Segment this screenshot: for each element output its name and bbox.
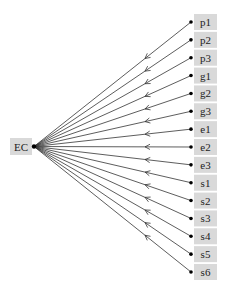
edge-e3 — [34, 147, 191, 165]
endpoint-dot — [189, 217, 193, 221]
node-label: g3 — [200, 105, 212, 117]
edge-p3 — [34, 58, 191, 147]
edge-s5 — [34, 147, 191, 255]
endpoint-dot — [189, 20, 193, 24]
edge-e1 — [34, 129, 191, 146]
node-label: s1 — [201, 177, 211, 189]
edges — [34, 22, 191, 272]
endpoint-dot — [189, 38, 193, 42]
node-label: p2 — [200, 34, 211, 46]
endpoint-dot — [189, 109, 193, 113]
edge-s1 — [34, 147, 191, 183]
source-node: EC — [10, 138, 36, 155]
endpoint-dot — [189, 74, 193, 78]
node-label: p3 — [200, 52, 212, 64]
endpoint-dot — [189, 127, 193, 131]
endpoint-dot — [189, 199, 193, 203]
edge-e2 — [34, 147, 191, 148]
target-node-g3: g3 — [189, 103, 217, 119]
node-label: s3 — [201, 212, 211, 224]
node-label: s6 — [201, 266, 211, 278]
edge-p2 — [34, 40, 191, 147]
node-label: s4 — [201, 230, 211, 242]
endpoint-dot — [189, 270, 193, 274]
node-label: s2 — [201, 195, 211, 207]
node-label: e1 — [200, 123, 210, 135]
target-node-s1: s1 — [189, 175, 217, 191]
edge-p1 — [34, 22, 191, 147]
node-label: g1 — [200, 70, 211, 82]
node-label: p1 — [200, 16, 211, 28]
target-node-s2: s2 — [189, 193, 217, 209]
arrowhead-icon — [145, 223, 151, 228]
endpoint-dot — [189, 234, 193, 238]
target-node-s5: s5 — [189, 246, 217, 262]
endpoint-dot — [189, 56, 193, 60]
target-node-e3: e3 — [189, 157, 217, 173]
target-node-g1: g1 — [189, 68, 217, 84]
target-node-e2: e2 — [189, 139, 217, 155]
endpoint-dot — [189, 181, 193, 185]
target-node-p2: p2 — [189, 32, 217, 48]
target-node-e1: e1 — [189, 121, 217, 137]
target-node-s6: s6 — [189, 264, 217, 280]
edge-s3 — [34, 147, 191, 219]
edge-s2 — [34, 147, 191, 201]
arrowhead-icon — [145, 66, 151, 71]
target-node-s4: s4 — [189, 228, 217, 244]
endpoint-dot — [189, 163, 193, 167]
target-node-s3: s3 — [189, 210, 217, 226]
target-nodes: p1p2p3g1g2g3e1e2e3s1s2s3s4s5s6 — [189, 14, 217, 280]
target-node-g2: g2 — [189, 85, 217, 101]
node-label: g2 — [200, 87, 211, 99]
node-label: e3 — [200, 159, 211, 171]
node-label: s5 — [201, 248, 211, 260]
endpoint-dot — [189, 252, 193, 256]
edge-g1 — [34, 76, 191, 147]
target-node-p1: p1 — [189, 14, 217, 30]
edge-s4 — [34, 147, 191, 237]
path-diagram: EC p1p2p3g1g2g3e1e2e3s1s2s3s4s5s6 — [0, 0, 231, 290]
target-node-p3: p3 — [189, 50, 217, 66]
node-label: e2 — [200, 141, 210, 153]
edge-s6 — [34, 147, 191, 273]
endpoint-dot — [189, 92, 193, 96]
source-node-label: EC — [14, 141, 28, 153]
edge-g2 — [34, 93, 191, 146]
endpoint-dot — [189, 145, 193, 149]
edge-g3 — [34, 111, 191, 146]
source-junction-dot — [32, 144, 36, 148]
